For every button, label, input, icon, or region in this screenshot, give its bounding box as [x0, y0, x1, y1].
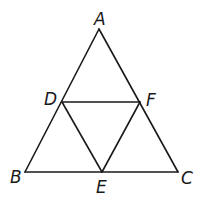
label-e: E	[96, 177, 107, 197]
segment-ac	[99, 29, 178, 172]
label-a: A	[93, 9, 106, 29]
segment-ef	[102, 102, 140, 172]
label-d: D	[44, 89, 57, 109]
segment-ab	[25, 29, 99, 172]
segment-de	[62, 102, 102, 172]
triangle-diagram: A B C D E F	[0, 0, 210, 206]
label-c: C	[181, 168, 193, 188]
label-f: F	[146, 90, 156, 110]
label-b: B	[10, 167, 22, 187]
